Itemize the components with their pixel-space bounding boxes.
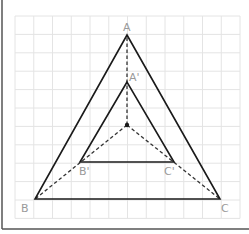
label-b-prime: B'	[79, 165, 90, 178]
homothety-diagram: A B C A' B' C'	[0, 0, 249, 234]
label-a: A	[123, 21, 131, 34]
homothety-center-point	[125, 123, 129, 127]
label-b: B	[21, 202, 29, 215]
label-c-prime: C'	[164, 165, 175, 178]
label-c: C	[221, 202, 229, 215]
label-a-prime: A'	[129, 71, 140, 84]
